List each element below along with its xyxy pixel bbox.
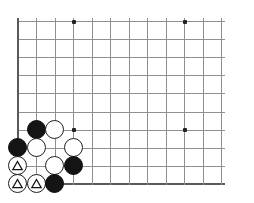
black-stone-b4[interactable] (45, 174, 64, 193)
grid-line-horizontal-3 (17, 75, 226, 76)
star-point-top-right (183, 20, 187, 24)
black-stone-b3[interactable] (64, 156, 83, 175)
go-board-surface[interactable] (0, 0, 254, 203)
triangle-mark-icon (12, 178, 23, 189)
grid-line-vertical-11 (221, 18, 222, 185)
go-diagram: Go board corner diagram (0, 0, 254, 203)
white-stone-w5[interactable] (45, 156, 64, 175)
star-point-lower-left (72, 128, 76, 132)
grid-line-vertical-6 (129, 18, 130, 185)
grid-line-vertical-8 (166, 18, 167, 185)
grid-line-vertical-4 (92, 18, 93, 185)
grid-line-vertical-1 (36, 18, 37, 185)
white-stone-w2[interactable] (27, 138, 46, 157)
grid-line-horizontal-1 (17, 39, 226, 40)
grid-line-horizontal-2 (17, 57, 226, 58)
grid-line-vertical-9 (184, 18, 185, 185)
white-stone-w3[interactable] (64, 138, 83, 157)
white-stone-w1[interactable] (45, 120, 64, 139)
white-stone-w6-marked[interactable] (8, 174, 27, 193)
grid-line-horizontal-0 (17, 21, 226, 22)
grid-line-horizontal-7 (17, 148, 226, 149)
grid-line-vertical-10 (203, 18, 204, 185)
grid-line-horizontal-5 (17, 112, 226, 113)
grid-line-vertical-7 (147, 18, 148, 185)
triangle-mark-icon (12, 160, 23, 171)
white-stone-w7-marked[interactable] (27, 174, 46, 193)
triangle-mark-icon (31, 178, 42, 189)
grid-line-horizontal-4 (17, 93, 226, 94)
grid-line-vertical-5 (110, 18, 111, 185)
black-stone-b2[interactable] (8, 138, 27, 157)
white-stone-w4-marked[interactable] (8, 156, 27, 175)
black-stone-b1[interactable] (27, 120, 46, 139)
star-point-top-left (72, 20, 76, 24)
star-point-lower-right (183, 128, 187, 132)
